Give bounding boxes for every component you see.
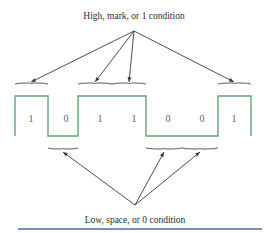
bit-label-1: 0: [64, 113, 69, 124]
high-condition-label: High, mark, or 1 condition: [83, 11, 185, 21]
bit-label-3: 1: [132, 113, 137, 124]
bit-label-0: 1: [29, 113, 34, 124]
signal-waveform-figure: High, mark, or 1 condition 1011001 Low, …: [0, 0, 271, 233]
bit-label-4: 0: [166, 113, 171, 124]
bit-label-6: 1: [232, 113, 237, 124]
bit-label-2: 1: [98, 113, 103, 124]
low-condition-label: Low, space, or 0 condition: [85, 215, 186, 225]
bit-label-5: 0: [200, 113, 205, 124]
